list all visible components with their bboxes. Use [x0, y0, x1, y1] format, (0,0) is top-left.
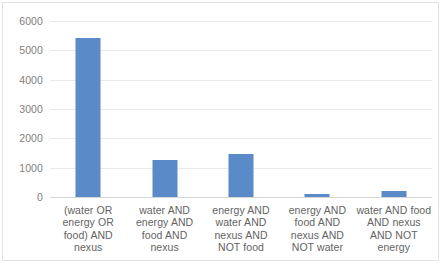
x-axis-category-label: water AND energy AND food AND nexus: [126, 204, 202, 254]
chart-container: 0100020003000400050006000 (water OR ener…: [2, 2, 439, 261]
x-axis-category-label: (water OR energy OR food) AND nexus: [50, 204, 126, 254]
y-axis-tick-label: 0: [37, 191, 43, 203]
bars-area: [50, 21, 432, 197]
chart-bar[interactable]: [76, 38, 101, 197]
chart-bar[interactable]: [228, 154, 253, 197]
y-axis-tick-label: 4000: [19, 74, 43, 86]
axis-baseline: [50, 197, 432, 198]
chart-bar[interactable]: [305, 194, 330, 197]
y-axis: 0100020003000400050006000: [3, 3, 50, 260]
x-axis-category-label: water AND food AND nexus AND NOT energy: [356, 204, 432, 254]
chart-bar[interactable]: [152, 160, 177, 197]
y-axis-tick-label: 1000: [19, 162, 43, 174]
y-axis-tick-label: 3000: [19, 103, 43, 115]
x-axis-category-labels: (water OR energy OR food) AND nexuswater…: [50, 200, 432, 260]
bar-slot: [50, 21, 126, 197]
chart-plot-wrapper: 0100020003000400050006000 (water OR ener…: [3, 3, 438, 260]
bar-slot: [126, 21, 202, 197]
bar-slot: [279, 21, 355, 197]
y-axis-tick-label: 5000: [19, 44, 43, 56]
chart-bar[interactable]: [381, 191, 406, 197]
bar-slot: [356, 21, 432, 197]
y-axis-tick-label: 2000: [19, 132, 43, 144]
x-axis-category-label: energy AND water AND nexus AND NOT food: [203, 204, 279, 254]
x-axis-category-label: energy AND food AND nexus AND NOT water: [279, 204, 355, 254]
y-axis-tick-label: 6000: [19, 15, 43, 27]
bar-slot: [203, 21, 279, 197]
